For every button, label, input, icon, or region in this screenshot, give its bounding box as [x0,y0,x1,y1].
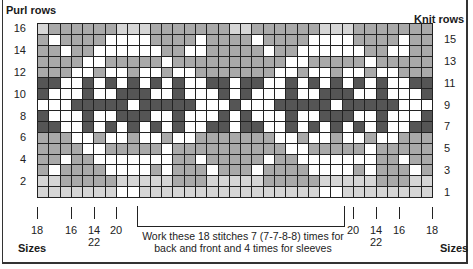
chart-cell [230,133,240,143]
chart-cell [219,35,229,45]
chart-cell [117,57,127,67]
chart-cell [354,187,364,197]
chart-cell [117,78,127,88]
chart-cell [422,155,432,165]
chart-cell [343,24,353,34]
purl-row-label: 16 [6,22,26,34]
chart-cell [106,68,116,78]
chart-cell [72,24,82,34]
size-tick-label: 1422 [82,224,106,248]
chart-cell [117,111,127,121]
chart-cell [264,46,274,56]
chart-cell [252,111,262,121]
chart-cell [275,78,285,88]
chart-cell [117,165,127,175]
chart-cell [219,111,229,121]
chart-cell [94,144,104,154]
chart-cell [320,24,330,34]
chart-cell [309,111,319,121]
chart-cell [162,46,172,56]
chart-cell [377,155,387,165]
chart-cell [343,155,353,165]
chart-cell [331,111,341,121]
chart-cell [365,111,375,121]
chart-cell [94,111,104,121]
chart-cell [331,144,341,154]
chart-cell [83,111,93,121]
chart-cell [173,35,183,45]
chart-cell [241,24,251,34]
chart-cell [388,100,398,110]
chart-cell [219,165,229,175]
chart-cell [83,100,93,110]
chart-cell [49,122,59,132]
chart-cell [185,35,195,45]
chart-cell [117,35,127,45]
chart-cell [252,35,262,45]
chart-cell [83,155,93,165]
chart-cell [106,155,116,165]
chart-cell [140,144,150,154]
chart-cell [162,89,172,99]
chart-cell [309,144,319,154]
chart-cell [38,122,48,132]
chart-cell [275,133,285,143]
chart-cell [72,89,82,99]
chart-cell [83,78,93,88]
chart-cell [331,35,341,45]
chart-cell [196,133,206,143]
chart-cell [151,133,161,143]
chart-cell [117,155,127,165]
chart-cell [298,68,308,78]
chart-cell [354,111,364,121]
chart-cell [162,155,172,165]
repeat-note-line2: back and front and 4 times for sleeves [140,242,346,254]
purl-row-label: 4 [6,153,26,165]
chart-cell [230,100,240,110]
chart-cell [422,68,432,78]
chart-cell [140,89,150,99]
chart-cell [410,68,420,78]
chart-cell [61,133,71,143]
chart-cell [185,24,195,34]
chart-cell [219,24,229,34]
chart-cell [72,133,82,143]
chart-cell [140,155,150,165]
chart-cell [61,35,71,45]
chart-cell [422,144,432,154]
chart-cell [128,165,138,175]
chart-cell [162,122,172,132]
chart-cell [173,176,183,186]
chart-cell [399,165,409,175]
chart-cell [422,35,432,45]
chart-cell [38,155,48,165]
chart-cell [343,122,353,132]
chart-cell [72,176,82,186]
chart-cell [151,144,161,154]
chart-cell [117,46,127,56]
chart-cell [151,122,161,132]
chart-cell [207,144,217,154]
chart-cell [185,187,195,197]
chart-cell [94,122,104,132]
knit-row-label: 11 [444,77,464,89]
chart-cell [275,144,285,154]
chart-cell [219,100,229,110]
chart-cell [106,122,116,132]
chart-cell [94,46,104,56]
chart-cell [185,111,195,121]
chart-cell [422,122,432,132]
chart-cell [422,111,432,121]
chart-cell [298,111,308,121]
chart-cell [72,144,82,154]
chart-cell [365,187,375,197]
chart-cell [61,122,71,132]
chart-cell [140,24,150,34]
chart-cell [343,68,353,78]
chart-cell [230,89,240,99]
chart-cell [298,24,308,34]
chart-cell [354,165,364,175]
chart-cell [365,165,375,175]
chart-cell [252,89,262,99]
chart-cell [230,57,240,67]
